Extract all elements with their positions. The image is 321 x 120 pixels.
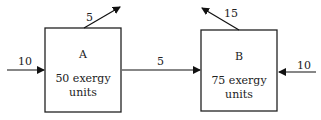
- label-a-to-b: 5: [157, 56, 164, 68]
- box-b-line1: 75 exergy: [201, 74, 277, 88]
- box-b-line2: units: [201, 88, 277, 102]
- label-b-output-up: 15: [224, 8, 238, 20]
- box-a-line1: 50 exergy: [45, 72, 121, 86]
- label-a-output-up: 5: [86, 12, 93, 24]
- box-b-title: B: [201, 50, 277, 64]
- box-a-text: A 50 exergy units: [45, 48, 121, 100]
- box-b-text: B 75 exergy units: [201, 50, 277, 102]
- label-b-input: 10: [297, 60, 311, 72]
- label-a-input: 10: [18, 56, 32, 68]
- box-a-line2: units: [45, 86, 121, 100]
- box-a-title: A: [45, 48, 121, 62]
